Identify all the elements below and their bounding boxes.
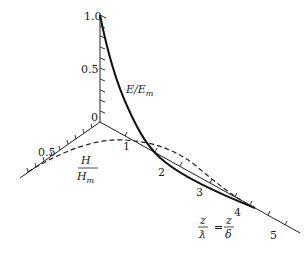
svg-text:Hm: Hm: [76, 170, 95, 185]
label-z-over-lambda: z ƛ = z δ: [198, 214, 234, 241]
svg-text:ƛ: ƛ: [198, 228, 206, 241]
h-tick-label-05: 0.5: [38, 146, 56, 159]
svg-text:=: =: [214, 221, 223, 234]
svg-text:δ: δ: [225, 228, 232, 241]
v-tick-label-0: 0: [91, 111, 98, 124]
z-tick-label-1: 1: [123, 140, 130, 153]
svg-text:E/Em: E/Em: [125, 83, 154, 98]
svg-text:H: H: [80, 154, 91, 167]
label-e-over-em: E/Em: [125, 83, 154, 98]
v-tick-label-1: 1.0: [84, 10, 102, 23]
z-tick-label-3: 3: [196, 186, 203, 199]
svg-text:z: z: [225, 214, 232, 227]
curve-h: [28, 140, 255, 208]
field-decay-diagram: 1.0 0.5 0 0.5 1 2 3 4 5 E/Em H Hm z: [0, 0, 308, 257]
z-tick-label-4: 4: [234, 206, 241, 219]
v-tick-label-05: 0.5: [81, 63, 99, 76]
z-tick-label-2: 2: [158, 166, 165, 179]
svg-text:z: z: [199, 214, 206, 227]
label-h-over-hm: H Hm: [76, 154, 98, 185]
z-tick-label-5: 5: [270, 229, 277, 242]
curve-e: [100, 15, 255, 208]
